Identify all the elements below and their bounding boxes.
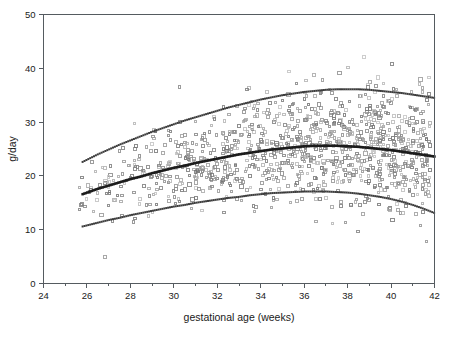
curve-marker xyxy=(163,207,165,209)
scatter-point xyxy=(264,130,267,133)
scatter-point xyxy=(228,165,231,168)
curve-marker xyxy=(114,218,116,220)
scatter-point xyxy=(250,144,252,146)
scatter-point xyxy=(122,147,125,150)
scatter-point xyxy=(118,176,120,178)
scatter-point xyxy=(269,112,271,114)
curve-marker xyxy=(275,192,277,194)
scatter-point xyxy=(143,185,146,188)
curve-marker xyxy=(327,89,329,91)
scatter-point xyxy=(238,141,240,143)
curve-marker xyxy=(249,101,251,103)
curve-marker xyxy=(160,128,162,130)
scatter-point xyxy=(160,162,162,164)
scatter-point xyxy=(91,160,94,163)
curve-marker xyxy=(234,196,236,198)
scatter-point xyxy=(408,117,411,120)
curve-marker xyxy=(110,147,112,149)
scatter-point xyxy=(211,125,213,127)
scatter-point xyxy=(220,161,222,163)
curve-marker xyxy=(256,99,258,101)
scatter-point xyxy=(391,219,394,222)
curve-marker xyxy=(365,194,367,196)
scatter-point xyxy=(266,91,269,94)
scatter-point xyxy=(388,174,390,176)
curve-marker xyxy=(169,125,171,127)
scatter-point xyxy=(427,76,430,79)
curve-marker xyxy=(123,216,125,218)
curve-marker xyxy=(158,209,160,211)
curve-marker xyxy=(108,219,110,221)
curve-marker xyxy=(241,103,243,105)
curve-marker xyxy=(382,90,384,92)
curve-marker xyxy=(378,90,380,92)
scatter-point xyxy=(104,256,107,259)
x-tick-label: 34 xyxy=(255,290,266,301)
scatter-point xyxy=(379,164,381,166)
curve-marker xyxy=(351,88,353,90)
curve-marker xyxy=(260,98,262,100)
curve-marker xyxy=(329,89,331,91)
scatter-point xyxy=(133,122,135,124)
curve-marker xyxy=(283,192,285,194)
curve-marker xyxy=(367,194,369,196)
curve-marker xyxy=(287,93,289,95)
scatter-point xyxy=(234,143,236,145)
curve-marker xyxy=(277,192,279,194)
curve-marker xyxy=(175,205,177,207)
curve-marker xyxy=(239,104,241,106)
scatter-point xyxy=(405,179,407,181)
scatter-point xyxy=(273,178,275,180)
curve-marker xyxy=(426,96,428,98)
scatter-point xyxy=(252,108,254,110)
scatter-point xyxy=(344,221,347,224)
scatter-point xyxy=(348,157,351,160)
scatter-point xyxy=(341,133,344,136)
scatter-point xyxy=(245,168,248,171)
scatter-point xyxy=(368,107,371,110)
scatter-point xyxy=(160,187,163,190)
scatter-point xyxy=(344,173,347,176)
scatter-point xyxy=(359,131,362,134)
scatter-point xyxy=(253,105,256,108)
curve-marker xyxy=(217,110,219,112)
scatter-point xyxy=(379,127,382,130)
scatter-point xyxy=(312,188,315,191)
scatter-point xyxy=(377,143,379,145)
scatter-point xyxy=(278,106,281,109)
scatter-point xyxy=(145,146,148,149)
scatter-point xyxy=(373,155,375,157)
curve-marker xyxy=(215,110,217,112)
curve-marker xyxy=(255,194,257,196)
curve-marker xyxy=(279,192,281,194)
scatter-point xyxy=(320,107,323,110)
curve-marker xyxy=(357,193,359,195)
scatter-point xyxy=(416,193,418,195)
curve-marker xyxy=(388,91,390,93)
scatter-point xyxy=(200,209,203,212)
scatter-point xyxy=(210,152,212,154)
curve-marker xyxy=(116,217,118,219)
scatter-point xyxy=(164,175,167,178)
curve-marker xyxy=(304,191,306,193)
curve-marker xyxy=(226,107,228,109)
scatter-point xyxy=(380,137,382,139)
curve-marker xyxy=(139,136,141,138)
curve-marker xyxy=(405,202,407,204)
curve-marker xyxy=(144,133,146,135)
scatter-point xyxy=(369,117,372,120)
curve-marker xyxy=(209,200,211,202)
curve-marker xyxy=(167,207,169,209)
curve-marker xyxy=(228,106,230,108)
curve-marker xyxy=(294,191,296,193)
scatter-point xyxy=(352,124,354,126)
scatter-point xyxy=(230,173,233,176)
curve-marker xyxy=(363,89,365,91)
scatter-point xyxy=(315,147,318,150)
curve-marker xyxy=(306,191,308,193)
curve-marker xyxy=(255,100,257,102)
scatter-point xyxy=(216,162,219,165)
scatter-point xyxy=(207,164,210,167)
curve-marker xyxy=(395,199,397,201)
curve-marker xyxy=(329,191,331,193)
